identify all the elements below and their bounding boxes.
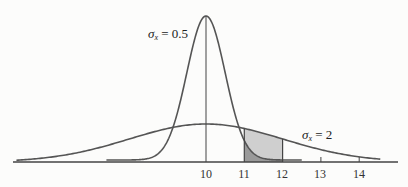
tick-label-12: 12 bbox=[276, 167, 288, 182]
plot-area bbox=[0, 0, 408, 187]
label-sigma-0-5: σx = 0.5 bbox=[148, 26, 188, 42]
sigma-value: = 2 bbox=[312, 127, 332, 142]
tick-label-11: 11 bbox=[238, 167, 250, 182]
sigma-value: = 0.5 bbox=[158, 26, 188, 41]
normal-distributions-figure: σx = 0.5 σx = 2 10 11 12 13 14 bbox=[0, 0, 408, 187]
tick-label-13: 13 bbox=[314, 167, 326, 182]
tick-label-10: 10 bbox=[200, 167, 212, 182]
x-axis bbox=[13, 16, 398, 162]
label-sigma-2: σx = 2 bbox=[302, 127, 332, 143]
tick-label-14: 14 bbox=[353, 167, 365, 182]
